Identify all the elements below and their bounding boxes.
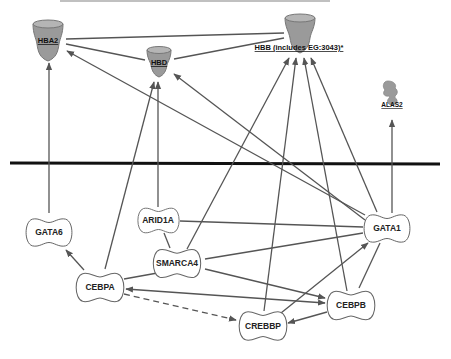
network-diagram: HBA2 HBD HBB (includes EG:3043)* ALAS2 G… (0, 0, 451, 359)
node-cebpa[interactable]: CEBPA (76, 273, 124, 301)
edge-arid1a-gata1 (180, 221, 363, 227)
node-cebpb[interactable]: CEBPB (327, 291, 375, 319)
node-gata6[interactable]: GATA6 (26, 219, 72, 246)
node-label-hba2: HBA2 (38, 36, 58, 45)
node-hba2[interactable]: HBA2 (33, 20, 63, 61)
edge-cebpa-hbd (105, 82, 154, 269)
node-label-hbb: HBB (includes EG:3043)* (255, 43, 344, 52)
edge-gata1-hbd (174, 74, 365, 220)
edge-smarca4-hbb (187, 58, 289, 249)
node-smarca4[interactable]: SMARCA4 (153, 249, 200, 277)
node-label-cebpa: CEBPA (85, 282, 114, 292)
edge-cebpa-crebbp (124, 294, 236, 320)
node-label-arid1a: ARID1A (142, 215, 174, 225)
node-hbd[interactable]: HBD (147, 47, 171, 78)
node-arid1a[interactable]: ARID1A (138, 208, 179, 233)
edge-arid1a-smarca4 (164, 233, 170, 248)
edge-hba2-hbb (66, 33, 284, 39)
edge-smarca4-cebpb (205, 269, 325, 298)
node-label-gata6: GATA6 (35, 227, 63, 237)
node-label-crebbp: CREBBP (245, 321, 281, 331)
membrane-divider (10, 163, 440, 164)
edge-cebpb-crebbp (288, 312, 327, 323)
edge-gata1-hba2 (67, 51, 365, 215)
node-label-alas2: ALAS2 (381, 101, 403, 108)
edge-cebpa-gata6 (66, 250, 84, 270)
node-alas2[interactable]: ALAS2 (381, 81, 403, 108)
edge-gata1-cebpb (359, 243, 380, 288)
edge-gata1-hbb (311, 58, 377, 212)
node-label-cebpb: CEBPB (336, 300, 366, 310)
node-label-gata1: GATA1 (373, 223, 401, 233)
node-label-hbd: HBD (151, 58, 168, 67)
node-gata1[interactable]: GATA1 (364, 215, 410, 242)
node-label-smarca4: SMARCA4 (156, 258, 198, 268)
node-crebbp[interactable]: CREBBP (239, 312, 287, 340)
